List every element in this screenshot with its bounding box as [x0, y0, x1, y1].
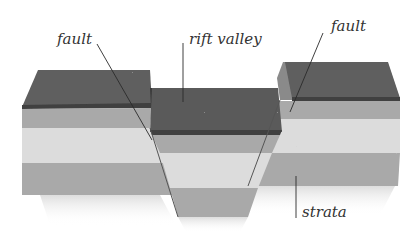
right-stratum-3	[248, 153, 400, 186]
rift-stratum-3	[170, 188, 258, 217]
left-stratum-1	[22, 108, 152, 128]
fault-left-label: fault	[57, 32, 92, 47]
rift-top-surface	[150, 88, 282, 132]
rift-valley-label: rift valley	[189, 32, 262, 47]
rift-stratum-2	[160, 153, 272, 188]
right-top-surface	[285, 62, 400, 98]
left-top-surface	[22, 70, 152, 107]
left-stratum-3	[22, 163, 176, 195]
fault-right-label: fault	[331, 19, 366, 34]
strata-label: strata	[302, 205, 347, 220]
left-stratum-2	[22, 128, 166, 163]
